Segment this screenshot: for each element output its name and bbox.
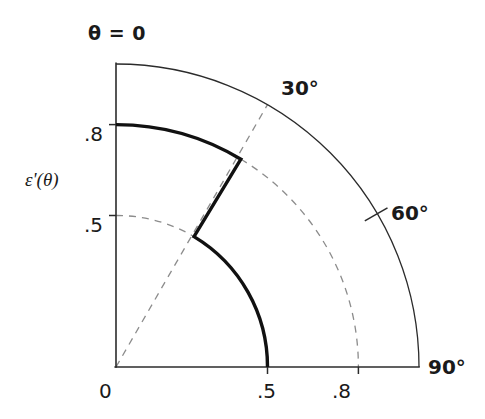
tick-label-bottom-0p5: .5 bbox=[257, 381, 276, 401]
tick-label-left-0p8: .8 bbox=[84, 124, 103, 144]
tick-label-bottom-0p8: .8 bbox=[332, 381, 351, 401]
tick-label-bottom-0: 0 bbox=[99, 381, 112, 401]
guide-arc-0p8 bbox=[241, 159, 359, 367]
theta-zero-label: θ = 0 bbox=[88, 24, 146, 43]
guide-arc-0p5 bbox=[116, 215, 194, 236]
tick-label-left-0p5: .5 bbox=[84, 215, 103, 235]
figure-canvas: θ = 0 ε'(θ) .8 .5 0 .5 .8 30° 60° 90° bbox=[0, 0, 485, 419]
angle-label-60: 60° bbox=[391, 203, 429, 223]
angle-label-90: 90° bbox=[428, 357, 466, 377]
y-axis-label: ε'(θ) bbox=[25, 170, 59, 189]
tick-60deg bbox=[365, 208, 388, 221]
angle-label-30: 30° bbox=[281, 78, 319, 98]
